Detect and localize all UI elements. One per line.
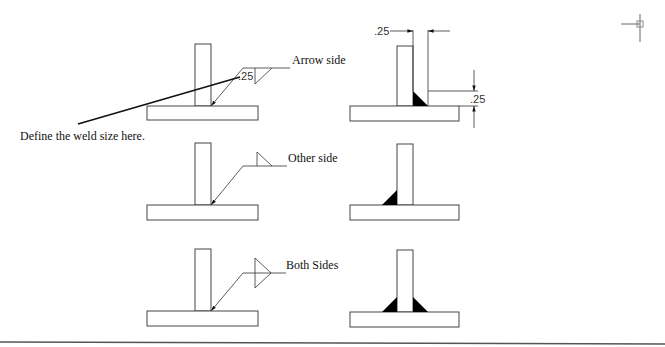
fillet-weld-left (382, 297, 397, 312)
bottom-rule (0, 342, 665, 344)
vertical-plate (195, 143, 211, 205)
both-sides-label: Both Sides (286, 258, 339, 272)
other-side-joint (147, 143, 258, 220)
weld-size-label: .25 (238, 70, 253, 82)
other-side-weld-symbol: Other side (211, 151, 338, 205)
vertical-dimension: .25 (470, 93, 485, 105)
fillet-weld-right (413, 297, 428, 312)
both-sides-weld-symbol: Both Sides (211, 258, 339, 311)
base-plate (147, 106, 258, 120)
fillet-symbol-icon (255, 68, 272, 84)
horizontal-dimension: .25 (374, 25, 389, 37)
base-plate (350, 205, 459, 220)
crosshair-icon (621, 14, 643, 42)
other-side-result (350, 144, 459, 220)
arrow-side-result: .25 .25 (350, 25, 485, 128)
callout-text: Define the weld size here. (20, 129, 145, 143)
vertical-plate (397, 144, 413, 205)
arrow-side-joint (147, 44, 258, 120)
fillet-weld (382, 190, 397, 205)
leader-arrow (211, 273, 243, 311)
base-plate (147, 205, 258, 220)
fillet-symbol-icon (257, 152, 272, 166)
base-plate (350, 106, 459, 121)
other-side-label: Other side (288, 151, 338, 165)
weld-symbols-diagram: .25 Arrow side Define the weld size here… (0, 0, 665, 347)
fillet-weld (413, 91, 428, 106)
arrow-side-label: Arrow side (292, 53, 346, 67)
both-sides-joint (147, 249, 258, 326)
leader-arrow (211, 166, 243, 205)
both-sides-result (350, 250, 459, 327)
base-plate (350, 312, 459, 327)
vertical-plate (397, 46, 413, 106)
base-plate (147, 311, 258, 326)
vertical-plate (195, 44, 211, 106)
vertical-plate (195, 249, 211, 311)
vertical-plate (397, 250, 413, 312)
